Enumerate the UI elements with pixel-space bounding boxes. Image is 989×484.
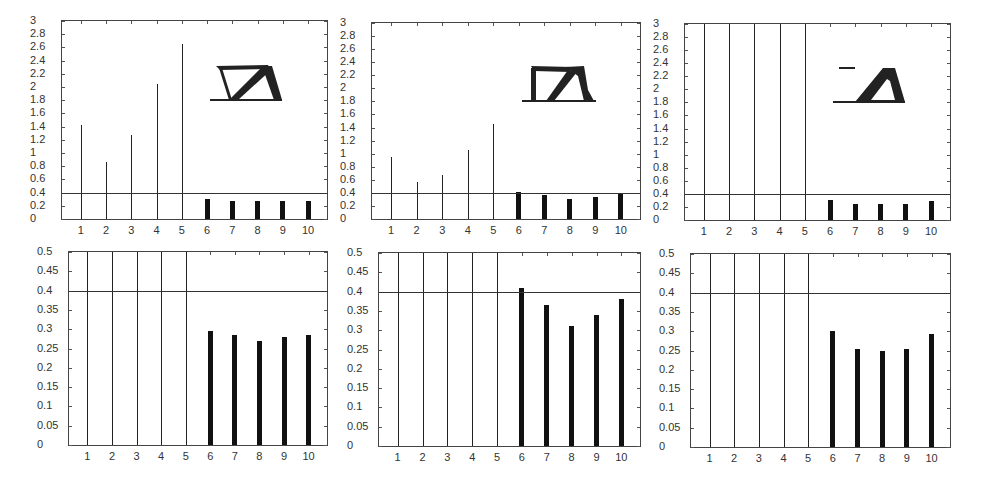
y-tick-label: 0.6 [30,173,45,184]
threshold-line [691,293,950,294]
y-tick-mark [637,167,640,168]
y-tick-label: 0.35 [659,306,680,317]
y-tick-mark [691,312,694,313]
y-tick-label: 0.05 [37,420,58,431]
y-tick-label: 1.8 [340,95,355,106]
x-tick-mark [308,21,309,24]
y-tick-mark [637,206,640,207]
y-tick-label: 2 [30,81,36,92]
y-tick-label: 1.4 [653,123,668,134]
truss-topology-icon [210,63,284,105]
x-tick-label: 4 [458,225,478,236]
y-tick-label: 0.4 [659,287,674,298]
y-tick-mark [372,114,375,115]
x-tick-label: 3 [744,226,764,237]
y-tick-mark [324,127,327,128]
y-tick-mark [372,128,375,129]
y-tick-mark [324,153,327,154]
y-tick-mark [62,47,65,48]
y-tick-mark [324,445,327,446]
y-tick-mark [324,61,327,62]
y-tick-mark [637,427,640,428]
x-tick-label: 10 [922,453,942,464]
x-tick-label: 4 [770,226,790,237]
chart-axes-bottom-right [690,253,951,448]
y-tick-mark [947,408,950,409]
truss-topology-icon [833,65,907,107]
data-bar [519,288,524,446]
y-tick-label: 2 [340,82,346,93]
y-tick-mark [637,36,640,37]
y-tick-label: 1.4 [30,121,45,132]
y-tick-label: 0.6 [340,174,355,185]
data-bar [205,199,210,219]
y-tick-mark [69,349,72,350]
stem-bar [497,253,498,446]
y-tick-label: 1.6 [653,109,668,120]
y-tick-mark [62,61,65,62]
data-bar [878,204,883,220]
y-tick-label: 2.4 [653,57,668,68]
x-tick-mark [572,253,573,256]
x-tick-label: 1 [388,452,408,463]
x-tick-label: 1 [694,226,714,237]
y-tick-label: 0.15 [37,381,58,392]
y-tick-mark [637,388,640,389]
x-tick-label: 9 [274,451,294,462]
y-tick-mark [62,34,65,35]
stem-bar [391,157,392,219]
y-tick-label: 0.45 [347,266,368,277]
y-tick-mark [62,179,65,180]
stem-bar [161,252,162,445]
y-tick-label: 2.8 [653,31,668,42]
y-tick-mark [947,129,950,130]
y-tick-mark [685,89,688,90]
x-tick-mark [207,21,208,24]
y-tick-label: 0.25 [37,343,58,354]
y-tick-label: 1 [340,148,346,159]
y-tick-mark [324,100,327,101]
threshold-line [372,193,640,194]
x-tick-mark [309,252,310,255]
y-tick-mark [62,87,65,88]
x-tick-label: 8 [249,451,269,462]
y-tick-mark [637,62,640,63]
x-tick-mark [283,21,284,24]
data-bar [593,197,598,219]
chart-axes-top-middle [371,22,641,220]
y-tick-mark [62,219,65,220]
y-tick-mark [947,220,950,221]
x-tick-label: 8 [872,453,892,464]
stem-bar [754,24,755,220]
y-tick-mark [947,351,950,352]
y-tick-mark [691,389,694,390]
data-bar [567,199,572,219]
y-tick-label: 0.2 [37,362,52,373]
y-tick-mark [379,350,382,351]
x-tick-label: 9 [585,225,605,236]
y-tick-mark [691,370,694,371]
y-tick-mark [637,154,640,155]
x-tick-label: 9 [897,453,917,464]
y-tick-mark [372,49,375,50]
y-tick-mark [685,155,688,156]
y-tick-mark [685,115,688,116]
y-tick-label: 2.6 [340,43,355,54]
y-tick-label: 2.2 [653,70,668,81]
y-tick-label: 1.4 [340,122,355,133]
y-tick-mark [372,154,375,155]
y-tick-label: 2.6 [653,44,668,55]
y-tick-label: 0.2 [653,201,668,212]
stem-bar [472,253,473,446]
data-bar [569,326,574,446]
data-bar [280,201,285,219]
x-tick-label: 10 [921,226,941,237]
x-tick-label: 3 [121,225,141,236]
y-tick-mark [947,102,950,103]
y-tick-label: 0.2 [347,363,362,374]
y-tick-label: 2.8 [30,28,45,39]
y-tick-mark [947,168,950,169]
chart-axes-bottom-left [68,251,328,446]
x-tick-label: 7 [534,225,554,236]
y-tick-mark [69,329,72,330]
